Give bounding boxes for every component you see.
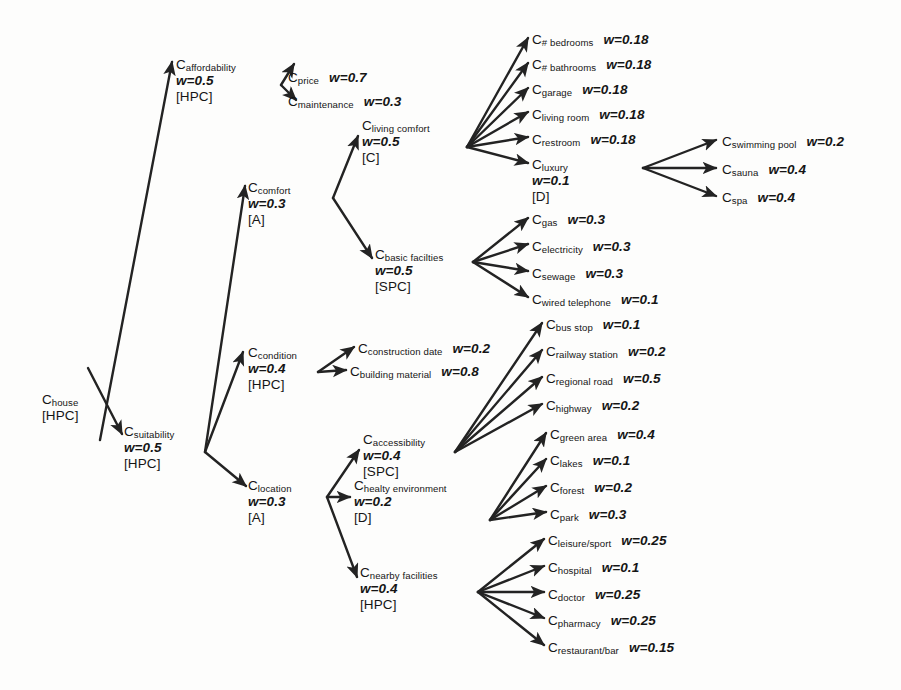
node-subscript: spa [732,195,748,206]
criterion-node-buildmat: Cbuilding materialw=0.8 [350,364,479,380]
node-label: C# bathrooms [532,57,596,73]
node-label: Cliving room [532,107,589,123]
node-label: Caccessibility [363,432,425,447]
criterion-node-doctor: Cdoctorw=0.25 [548,587,640,603]
node-subscript: leisure/sport [558,538,612,549]
node-weight: w=0.2 [628,344,666,360]
criterion-node-price: Cpricew=0.7 [288,70,367,86]
criterion-node-basicfac: Cbasic faciltiesw=0.5[SPC] [375,247,443,295]
node-label: Clocation [248,478,292,493]
node-weight: w=0.5 [124,440,174,456]
node-subscript: building material [360,369,432,380]
edge-location-to-nearbyfac [327,497,357,577]
node-subscript: living room [542,112,590,123]
criterion-node-sewage: Csewagew=0.3 [532,266,623,282]
node-weight: w=0.18 [582,82,627,98]
node-label: Crestaurant/bar [548,640,619,656]
node-subscript: # bathrooms [542,62,596,73]
edge-healthyenv-to-lakes [490,459,546,520]
edge-condition-to-constrdate [318,347,354,372]
node-label: Cpark [550,507,579,523]
criterion-node-location: Clocationw=0.3[A] [248,478,292,526]
node-type-tag: [HPC] [360,597,438,613]
edge-luxury-to-swimmingpool [643,140,716,168]
criterion-node-garage: Cgaragew=0.18 [532,82,628,98]
node-type-tag: [C] [362,150,430,166]
criterion-node-regroad: Cregional roadw=0.5 [546,371,661,387]
node-subscript: maintenance [298,99,354,110]
node-subscript: condition [258,350,297,361]
criterion-node-bedrooms: C# bedroomsw=0.18 [532,32,649,48]
edge-nearbyfac-to-leisure [478,539,544,592]
diagram-canvas: Chouse[HPC]Caffordabilityw=0.5[HPC]Csuit… [0,0,901,690]
criterion-node-park: Cparkw=0.3 [550,507,626,523]
criterion-node-maintenance: Cmaintenancew=0.3 [288,94,401,110]
edge-basicfac-to-electricity [473,244,528,262]
node-label: Cbus stop [546,317,593,333]
node-subscript: gas [542,217,558,228]
node-weight: w=0.25 [611,613,656,629]
node-weight: w=0.25 [621,533,666,549]
criterion-node-comfort: Ccomfortw=0.3[A] [248,180,290,228]
node-subscript: restaurant/bar [558,645,619,656]
node-weight: w=0.2 [594,480,632,496]
criterion-node-livingcomfort: Cliving comfortw=0.5[C] [362,118,430,166]
node-weight: w=0.3 [593,239,631,255]
node-subscript: accessibility [373,437,425,448]
edge-suitability-to-condition [205,352,243,452]
criterion-node-livingroom: Cliving roomw=0.18 [532,107,645,123]
node-weight: w=0.5 [375,263,443,279]
node-subscript: living comfort [372,123,430,134]
node-label: Cmaintenance [288,94,354,110]
node-type-tag: [A] [248,212,290,228]
node-subscript: forest [560,485,585,496]
node-label: Cgas [532,212,558,228]
node-subscript: healty environment [364,483,447,494]
node-subscript: location [258,483,292,494]
node-type-tag: [SPC] [375,279,443,295]
criterion-node-suitability: Csuitabilityw=0.5[HPC] [124,424,174,472]
criterion-node-pharmacy: Cpharmacyw=0.25 [548,613,656,629]
node-label: Cregional road [546,371,613,387]
node-weight: w=0.2 [354,494,447,510]
edge-nearbyfac-to-pharmacy [478,592,544,618]
edge-suitability-to-location [205,452,246,486]
node-weight: w=0.5 [176,73,236,89]
node-label: Csuitability [124,424,174,439]
criterion-node-swimmingpool: Cswimming poolw=0.2 [722,134,844,150]
node-weight: w=0.1 [603,317,641,333]
criterion-node-forest: Cforestw=0.2 [550,480,632,496]
node-weight: w=0.4 [360,581,438,597]
node-type-tag: [HPC] [42,408,79,424]
node-weight: w=0.1 [621,292,659,308]
node-weight: w=0.1 [602,560,640,576]
node-type-tag: [D] [354,510,447,526]
edge-healthyenv-to-greenarea [490,433,546,520]
node-subscript: hospital [558,565,592,576]
node-subscript: price [298,75,319,86]
node-subscript: # bedrooms [542,37,594,48]
node-weight: w=0.4 [248,361,297,377]
criterion-node-restaurant: Crestaurant/barw=0.15 [548,640,674,656]
edge-accessibility-to-highway [455,404,542,452]
node-label: Cwired telephone [532,292,611,308]
criterion-node-electricity: Celectricityw=0.3 [532,239,631,255]
node-weight: w=0.4 [768,162,806,178]
node-label: Ccomfort [248,180,290,195]
criterion-node-accessibility: Caccessibilityw=0.4[SPC] [363,432,425,480]
node-label: Csauna [722,162,758,178]
criterion-node-greenarea: Cgreen areaw=0.4 [550,427,655,443]
node-weight: w=0.4 [617,427,655,443]
node-weight: w=0.4 [758,190,796,206]
node-label: Csewage [532,266,575,282]
edge-comfort-to-basicfac [333,198,372,258]
node-weight: w=0.7 [329,70,367,86]
node-subscript: nearby facilities [370,570,438,581]
node-subscript: construction date [368,346,443,357]
criterion-node-highway: Chighwayw=0.2 [546,398,639,414]
node-label: Cbuilding material [350,364,431,380]
edge-luxury-to-spa [643,168,716,196]
node-label: Ccondition [248,345,297,360]
criterion-node-gas: Cgasw=0.3 [532,212,605,228]
criterion-node-railway: Crailway stationw=0.2 [546,344,666,360]
